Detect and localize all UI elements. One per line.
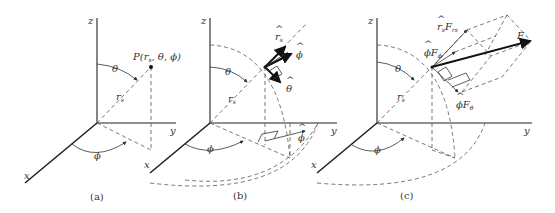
r-component-caret: ^: [437, 13, 445, 24]
theta-component-vector: [432, 67, 458, 92]
theta-label: θ: [112, 63, 118, 74]
ground-connector: [432, 150, 455, 158]
ground-projection: [377, 123, 455, 158]
ground-projection: [97, 123, 151, 150]
theta-label: θ: [395, 63, 401, 74]
ground-projection: [210, 123, 290, 158]
caption-c: (c): [400, 190, 414, 201]
x-axis-label: x: [144, 159, 150, 170]
spherical-coordinates-figure: z y x P(rs, θ, ϕ) θ rs ϕ (a): [0, 0, 555, 213]
phi-label: ϕ: [207, 143, 214, 154]
r-hat-caret: ^: [275, 23, 283, 34]
component-box-edge: [455, 36, 496, 52]
radius-label: rs: [228, 93, 236, 105]
point-p: [149, 65, 153, 69]
phi-hat-caret: ^: [296, 40, 304, 51]
y-axis-label: y: [330, 125, 337, 136]
phi-label: ϕ: [94, 150, 101, 161]
radius-label: rs: [116, 91, 124, 103]
panel-b: z y x rs ^ ϕ ^ θ ^ ϕ ^ θ rs ϕ (b): [144, 15, 337, 201]
radius-line: [377, 67, 432, 123]
ground-phi-hat-label: ϕ: [298, 132, 305, 143]
theta-hat-caret: ^: [286, 74, 294, 85]
y-axis-label: y: [169, 125, 176, 136]
panel-c: z y x F rsFrs ^ ϕFϕ ^ ϕFθ ^ θ rs ϕ (c): [311, 13, 532, 201]
force-label: F: [516, 30, 525, 41]
caption-a: (a): [90, 191, 104, 202]
z-axis-label: z: [200, 15, 207, 26]
point: [431, 66, 434, 69]
z-axis-label: z: [87, 15, 94, 26]
theta-component-caret: ^: [456, 90, 464, 101]
sphere-outer-arc: [317, 123, 485, 185]
caption-b: (b): [233, 190, 247, 201]
sphere-meridian-arc: [210, 45, 290, 158]
component-box-lower: [462, 41, 531, 92]
phi-hat-vector: [265, 54, 291, 67]
ground-phi-hat-caret: ^: [298, 121, 306, 132]
radius-line: [97, 67, 151, 123]
y-axis-label: y: [523, 125, 530, 136]
x-axis: [317, 123, 377, 173]
x-axis-label: x: [311, 159, 317, 170]
r-hat-vector: [265, 47, 285, 67]
x-axis: [150, 123, 210, 173]
point-p-label: P(rs, θ, ϕ): [132, 51, 181, 63]
radius-label: rs: [397, 91, 405, 103]
phi-label: ϕ: [374, 144, 381, 155]
panel-a: z y x P(rs, θ, ϕ) θ rs ϕ (a): [24, 15, 181, 202]
x-axis: [25, 123, 97, 183]
phi-arc: [185, 141, 243, 150]
x-axis-label: x: [24, 170, 30, 181]
sphere-meridian-arc: [377, 45, 455, 158]
theta-label: θ: [225, 66, 231, 77]
phi-component-caret: ^: [424, 38, 432, 49]
z-axis-label: z: [367, 15, 374, 26]
